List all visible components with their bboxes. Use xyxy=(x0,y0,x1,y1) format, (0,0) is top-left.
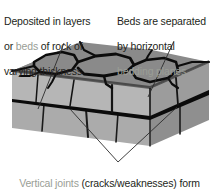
bedding-planes-keyword: bedding planes xyxy=(117,65,186,77)
beds-line-3: varying thickness xyxy=(4,65,82,77)
beds-keyword: beds xyxy=(16,40,38,52)
beds-annotation: Deposited in layers or beds of rock of v… xyxy=(4,2,112,78)
beds-line-2-suffix: of rock of xyxy=(38,40,82,52)
planes-line-2: by horizontal xyxy=(117,40,175,52)
vertical-joints-annotation: Vertical joints (cracks/weaknesses) form… xyxy=(0,164,219,193)
joints-line-1-rest: (cracks/weaknesses) form xyxy=(79,177,200,189)
planes-line-1: Beds are separated xyxy=(117,15,206,27)
beds-line-1: Deposited in layers xyxy=(4,15,90,27)
bedding-planes-annotation: Beds are separated by horizontal bedding… xyxy=(117,2,217,78)
vertical-joints-keyword: Vertical joints xyxy=(19,177,79,189)
beds-line-2-prefix: or xyxy=(4,40,16,52)
